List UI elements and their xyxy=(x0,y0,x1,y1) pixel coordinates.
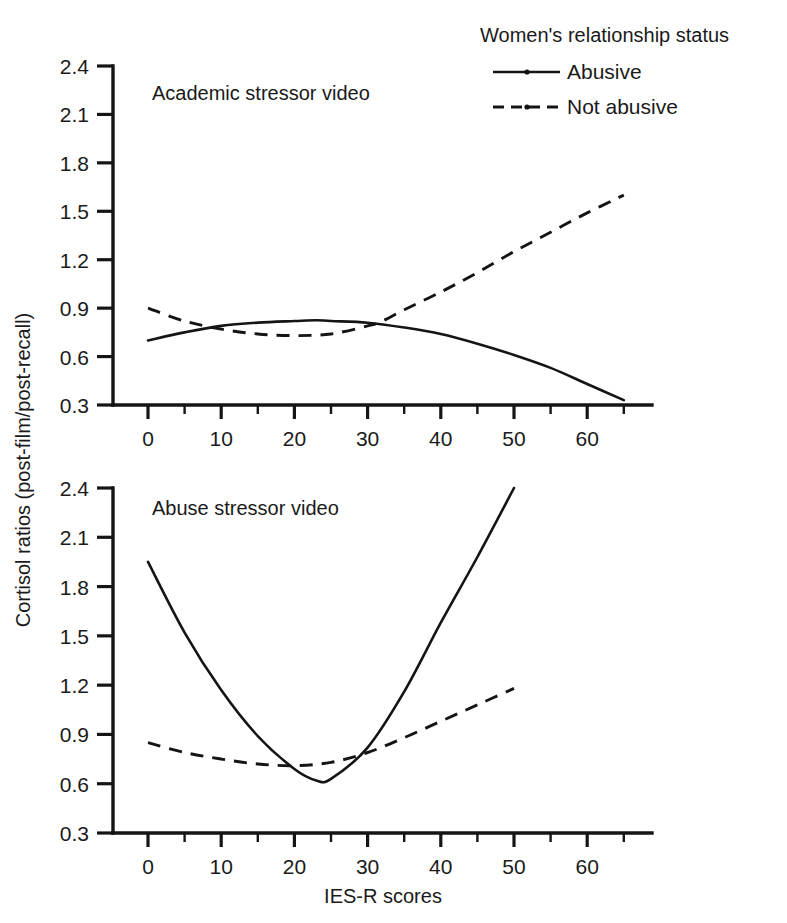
legend-item-abusive[interactable]: Abusive xyxy=(493,60,642,83)
y-tick-label: 2.4 xyxy=(60,55,90,78)
y-tick-label: 0.6 xyxy=(60,346,89,369)
y-tick-label: 1.8 xyxy=(60,576,89,599)
series-curve-not-abusive xyxy=(148,688,514,765)
y-tick-label: 1.2 xyxy=(60,674,89,697)
series-curve-abusive xyxy=(148,320,624,400)
y-tick-label: 2.1 xyxy=(60,103,89,126)
y-tick-label: 0.3 xyxy=(60,822,89,845)
cortisol-ratio-figure: Cortisol ratios (post-film/post-recall) … xyxy=(0,0,787,923)
y-tick-label: 0.9 xyxy=(60,723,89,746)
y-tick-label: 1.2 xyxy=(60,249,89,272)
x-tick-label: 10 xyxy=(210,855,233,878)
x-tick-label: 30 xyxy=(356,855,379,878)
y-tick-label: 2.1 xyxy=(60,526,89,549)
x-tick-label: 0 xyxy=(142,855,154,878)
x-tick-label: 50 xyxy=(502,427,525,450)
x-tick-label: 50 xyxy=(502,855,525,878)
bottom-panel-ticks: 0.30.60.91.21.51.82.12.40102030405060 xyxy=(60,477,624,878)
top-panel-ticks: 0.30.60.91.21.51.82.12.40102030405060 xyxy=(60,55,624,450)
x-tick-label: 10 xyxy=(210,427,233,450)
y-tick-label: 1.5 xyxy=(60,200,89,223)
legend-label-abusive: Abusive xyxy=(567,60,642,83)
series-curve-abusive xyxy=(148,488,514,782)
x-tick-label: 60 xyxy=(576,855,599,878)
x-tick-label: 40 xyxy=(429,427,452,450)
legend-item-not-abusive[interactable]: Not abusive xyxy=(493,95,678,118)
x-tick-label: 60 xyxy=(576,427,599,450)
top-panel-curves xyxy=(148,195,624,400)
panel-title-top: Academic stressor video xyxy=(152,82,370,104)
series-curve-not-abusive xyxy=(148,195,624,335)
bottom-panel-curves xyxy=(148,488,514,782)
legend-label-not-abusive: Not abusive xyxy=(567,95,678,118)
y-tick-label: 0.3 xyxy=(60,394,89,417)
x-tick-label: 40 xyxy=(429,855,452,878)
y-tick-label: 2.4 xyxy=(60,477,90,500)
x-axis-title: IES-R scores xyxy=(324,885,442,907)
x-tick-label: 20 xyxy=(283,855,306,878)
legend-marker-dot xyxy=(524,104,529,109)
panel-academic-stressor: Academic stressor video 0.30.60.91.21.51… xyxy=(60,55,652,450)
legend: Women's relationship status Abusive Not … xyxy=(480,24,729,118)
y-tick-label: 0.9 xyxy=(60,297,89,320)
x-tick-label: 0 xyxy=(142,427,154,450)
legend-marker-dot xyxy=(524,69,529,74)
y-tick-label: 1.8 xyxy=(60,152,89,175)
legend-title: Women's relationship status xyxy=(480,24,729,46)
x-tick-label: 20 xyxy=(283,427,306,450)
x-tick-label: 30 xyxy=(356,427,379,450)
y-tick-label: 0.6 xyxy=(60,773,89,796)
panel-title-bottom: Abuse stressor video xyxy=(152,497,339,519)
y-tick-label: 1.5 xyxy=(60,625,89,648)
panel-abuse-stressor: Abuse stressor video 0.30.60.91.21.51.82… xyxy=(60,477,652,878)
y-axis-title: Cortisol ratios (post-film/post-recall) xyxy=(12,313,34,628)
